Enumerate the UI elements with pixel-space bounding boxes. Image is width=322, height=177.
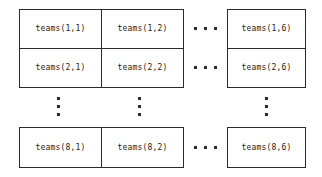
ellipsis-dot-icon [204, 27, 207, 30]
ellipsis-dot-icon [214, 146, 217, 149]
ellipsis-dot-icon [138, 113, 141, 116]
vertical-ellipsis-column-6 [265, 97, 268, 116]
array-cell-label: teams(1,6) [241, 25, 291, 33]
ellipsis-dot-icon [57, 97, 60, 100]
ellipsis-dot-icon [214, 66, 217, 69]
array-cell-r2c6: teams(2,6) [227, 48, 306, 88]
teams-array-diagram: teams(1,1) teams(1,2) teams(1,6) teams(2… [0, 0, 322, 177]
array-cell-label: teams(1,1) [35, 25, 85, 33]
vertical-ellipsis-column-2 [138, 97, 141, 116]
array-cell-label: teams(8,1) [35, 144, 85, 152]
array-cell-r8c6: teams(8,6) [227, 127, 306, 168]
array-cell-label: teams(2,2) [117, 64, 167, 72]
horizontal-ellipsis-row-2 [194, 66, 217, 69]
array-cell-r2c1: teams(2,1) [19, 48, 102, 88]
array-cell-label: teams(8,2) [117, 144, 167, 152]
ellipsis-dot-icon [204, 66, 207, 69]
ellipsis-dot-icon [204, 146, 207, 149]
ellipsis-dot-icon [265, 105, 268, 108]
ellipsis-dot-icon [57, 105, 60, 108]
vertical-ellipsis-column-1 [57, 97, 60, 116]
horizontal-ellipsis-row-8 [194, 146, 217, 149]
ellipsis-dot-icon [138, 97, 141, 100]
ellipsis-dot-icon [194, 66, 197, 69]
array-cell-label: teams(2,6) [241, 64, 291, 72]
array-cell-r1c2: teams(1,2) [101, 9, 184, 49]
array-cell-r1c6: teams(1,6) [227, 9, 306, 49]
ellipsis-dot-icon [194, 146, 197, 149]
ellipsis-dot-icon [214, 27, 217, 30]
array-cell-r8c2: teams(8,2) [101, 127, 184, 168]
array-cell-label: teams(2,1) [35, 64, 85, 72]
array-cell-r8c1: teams(8,1) [19, 127, 102, 168]
ellipsis-dot-icon [265, 113, 268, 116]
array-cell-label: teams(1,2) [117, 25, 167, 33]
array-cell-label: teams(8,6) [241, 144, 291, 152]
ellipsis-dot-icon [138, 105, 141, 108]
ellipsis-dot-icon [194, 27, 197, 30]
horizontal-ellipsis-row-1 [194, 27, 217, 30]
array-cell-r1c1: teams(1,1) [19, 9, 102, 49]
ellipsis-dot-icon [57, 113, 60, 116]
ellipsis-dot-icon [265, 97, 268, 100]
array-cell-r2c2: teams(2,2) [101, 48, 184, 88]
